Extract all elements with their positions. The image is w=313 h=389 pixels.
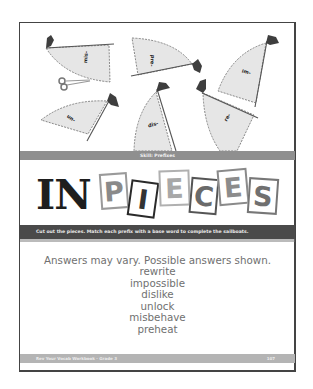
worksheet-title: IN P I E C E S	[20, 161, 295, 224]
title-tile-e2: E	[216, 168, 249, 206]
title-tile-c: C	[188, 177, 219, 215]
footer-bar: Rev Your Vocab Workbook · Grade 3 107	[20, 354, 295, 363]
answer-word: rewrite	[20, 266, 295, 278]
title-tile-i: I	[127, 179, 160, 219]
title-tile-p: P	[99, 172, 129, 210]
sail-piece-im[interactable]: im-	[218, 35, 279, 107]
skill-bar: Skill: Prefixes	[20, 151, 295, 160]
sail-piece-un[interactable]: un-	[41, 93, 119, 141]
prefix-label: mis-	[82, 51, 89, 63]
sail-piece-dis[interactable]: dis-	[134, 82, 176, 151]
answer-key: Answers may vary. Possible answers shown…	[20, 254, 295, 336]
instructions-shadow	[20, 239, 295, 242]
scissors-icon	[59, 78, 90, 90]
instructions-bar: Cut out the pieces. Match each prefix wi…	[20, 225, 295, 239]
sail-pieces-area: .sail { fill: #e6e6e6; stroke: #5a5a5a; …	[20, 23, 297, 151]
title-tile-s: S	[247, 177, 279, 215]
sail-piece-mis[interactable]: mis-	[46, 35, 114, 82]
footer-book-title: Rev Your Vocab Workbook · Grade 3	[36, 354, 117, 363]
sail-piece-pre[interactable]: pre-	[131, 38, 202, 76]
worksheet-page: .sail { fill: #e6e6e6; stroke: #5a5a5a; …	[19, 22, 296, 372]
title-tile-e1: E	[158, 169, 190, 206]
page-number: 107	[267, 354, 275, 363]
title-solid-text: IN	[36, 173, 91, 217]
answer-word: preheat	[20, 324, 295, 336]
